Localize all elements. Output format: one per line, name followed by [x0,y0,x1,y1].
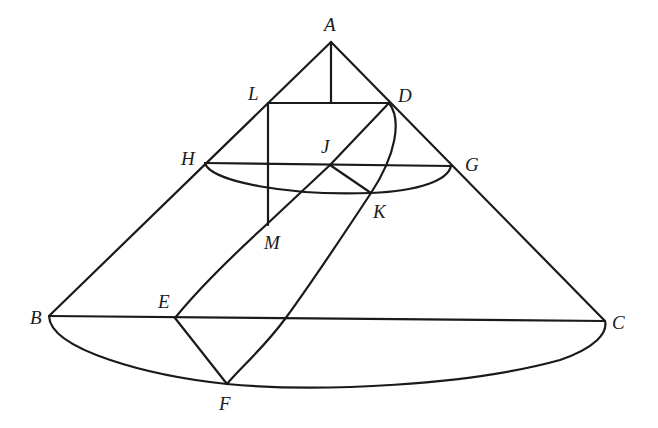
label-H: H [180,148,196,169]
segment-EF [175,318,227,384]
label-K: K [372,201,387,222]
base-circle-arc [49,316,605,388]
cone-parabola-diagram: A L D H J G K M B E C F [0,0,658,428]
label-E: E [157,291,170,312]
segment-DE [175,103,389,318]
segment-BC [49,316,605,321]
label-L: L [247,83,259,104]
label-M: M [263,232,281,253]
label-C: C [612,312,625,333]
label-G: G [465,154,479,175]
label-F: F [218,393,231,414]
label-J: J [321,136,331,157]
label-D: D [397,85,412,106]
label-B: B [30,307,42,328]
label-A: A [322,14,336,35]
parabola-curve [227,103,396,384]
segment-JK [330,165,371,193]
segment-AB [49,42,331,316]
segment-AC [331,42,605,321]
